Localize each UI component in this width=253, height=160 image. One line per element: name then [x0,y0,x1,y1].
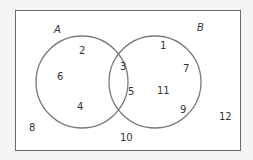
element-11: 11 [157,85,170,96]
element-4: 4 [77,101,83,112]
element-9: 9 [180,104,186,115]
element-3: 3 [120,61,126,72]
element-12: 12 [219,111,232,122]
element-6: 6 [57,71,63,82]
element-10: 10 [120,132,133,143]
set-b-label: B [197,22,204,33]
element-2: 2 [79,45,85,56]
element-5: 5 [128,86,134,97]
element-7: 7 [183,63,189,74]
venn-diagram: A B 2 6 4 3 5 1 7 11 9 8 10 12 [0,0,253,160]
set-a-label: A [53,24,61,35]
element-1: 1 [160,40,166,51]
element-8: 8 [29,122,35,133]
